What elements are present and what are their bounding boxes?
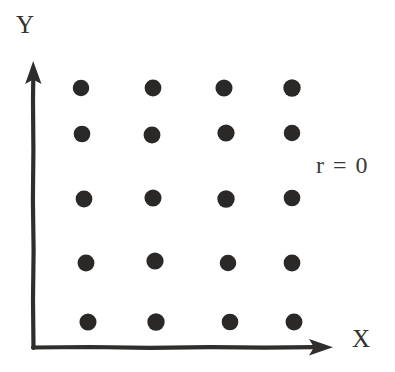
data-point — [283, 79, 300, 96]
data-point — [76, 191, 93, 208]
plot-canvas — [0, 0, 395, 372]
data-point — [286, 314, 303, 331]
correlation-annotation: r = 0 — [316, 152, 369, 179]
data-point — [284, 125, 301, 142]
data-point — [78, 255, 95, 272]
data-point — [73, 80, 90, 97]
scatter-plot-figure: Y X r = 0 — [0, 0, 395, 372]
y-axis-label: Y — [16, 12, 35, 37]
x-axis-line — [33, 347, 315, 348]
data-point — [146, 252, 163, 269]
y-axis-line — [33, 76, 34, 348]
data-point — [147, 313, 164, 330]
data-point — [284, 190, 301, 207]
data-point — [220, 255, 237, 272]
data-point — [144, 189, 161, 206]
data-point — [222, 314, 239, 331]
data-point — [215, 79, 232, 96]
data-points-layer — [73, 79, 303, 330]
data-point — [79, 313, 96, 330]
data-point — [217, 190, 234, 207]
data-point — [284, 255, 301, 272]
data-point — [145, 80, 162, 97]
data-point — [217, 124, 234, 141]
data-point — [144, 127, 161, 144]
x-axis — [33, 339, 333, 356]
x-axis-label: X — [352, 326, 371, 351]
data-point — [74, 126, 91, 143]
y-axis — [25, 61, 41, 348]
